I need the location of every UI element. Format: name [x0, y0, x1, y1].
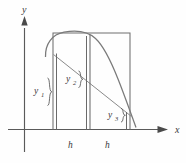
brace-y1: [48, 78, 52, 106]
label-y2: y 2: [65, 74, 77, 86]
label-y1: y 1: [33, 86, 44, 98]
label-h-left: h: [68, 140, 73, 150]
chord-line: [54, 55, 132, 117]
x-axis-arrowhead: [158, 126, 169, 133]
svg-text:y: y: [107, 110, 113, 120]
figure-container: y x y 1 y 2 y 3 h h: [0, 0, 186, 163]
svg-text:1: 1: [41, 91, 44, 98]
parabola-curve: [45, 31, 136, 127]
svg-text:y: y: [33, 86, 39, 96]
y-axis-label: y: [21, 4, 27, 15]
label-h-right: h: [105, 140, 110, 150]
svg-text:y: y: [65, 74, 71, 84]
svg-text:3: 3: [114, 115, 119, 122]
label-y3: y 3: [107, 110, 119, 122]
brace-y2: [79, 71, 83, 88]
svg-text:2: 2: [73, 79, 77, 86]
geometry-diagram: y x y 1 y 2 y 3 h h: [0, 0, 186, 163]
x-axis-label: x: [174, 124, 180, 135]
y-axis-arrowhead: [21, 16, 27, 26]
